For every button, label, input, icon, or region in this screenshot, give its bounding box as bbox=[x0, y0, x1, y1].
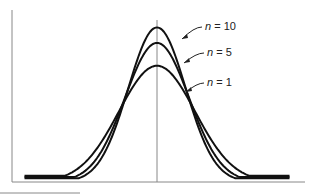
arrowhead-icon bbox=[184, 58, 190, 63]
annotation-label: n = 1 bbox=[207, 76, 232, 88]
annotation-label: n = 5 bbox=[207, 46, 232, 58]
arrowhead-icon bbox=[182, 34, 188, 39]
chart: n = 10n = 5n = 1 bbox=[0, 0, 315, 195]
annotation-label: n = 10 bbox=[205, 20, 236, 32]
